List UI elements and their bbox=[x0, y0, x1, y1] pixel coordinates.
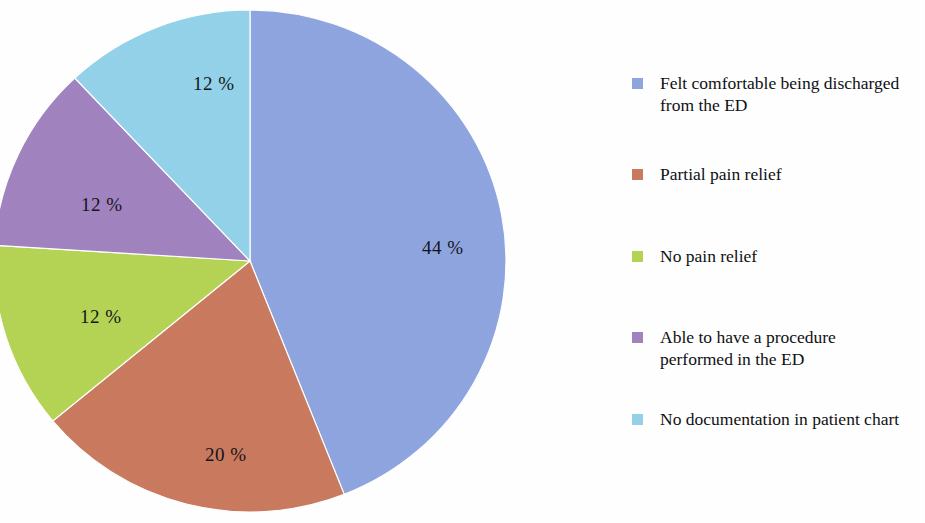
legend-item-label: Felt comfortable being discharged from t… bbox=[660, 72, 910, 116]
pie-slice-data-label: 12 % bbox=[81, 195, 123, 214]
legend-item-label: Partial pain relief bbox=[660, 163, 781, 185]
pie-slice-data-label: 44 % bbox=[422, 238, 464, 257]
legend-item: Able to have a procedure performed in th… bbox=[632, 326, 922, 370]
pie-slice-data-label: 12 % bbox=[193, 74, 235, 93]
legend-swatch-orange bbox=[632, 169, 643, 180]
pie-slice-data-label: 12 % bbox=[80, 307, 122, 326]
pie-chart-svg: Felt comfortable being discharged from t… bbox=[0, 0, 620, 523]
chart-plot-area: Felt comfortable being discharged from t… bbox=[0, 0, 620, 523]
pie-slice-data-label: 20 % bbox=[205, 445, 247, 464]
legend-swatch-cyan bbox=[632, 414, 643, 425]
pie-slice-group: Felt comfortable being discharged from t… bbox=[0, 10, 506, 512]
legend-item-label: No documentation in patient chart bbox=[660, 408, 899, 430]
legend-item: Felt comfortable being discharged from t… bbox=[632, 72, 922, 116]
legend-item: No pain relief bbox=[632, 245, 922, 267]
legend-item-label: No pain relief bbox=[660, 245, 757, 267]
legend-swatch-blue bbox=[632, 78, 643, 89]
legend-swatch-green bbox=[632, 251, 643, 262]
legend-item: No documentation in patient chart bbox=[632, 408, 922, 430]
legend-item: Partial pain relief bbox=[632, 163, 922, 185]
legend-swatch-purple bbox=[632, 332, 643, 343]
legend-item-label: Able to have a procedure performed in th… bbox=[660, 326, 910, 370]
pie-chart-figure: Felt comfortable being discharged from t… bbox=[0, 0, 925, 523]
